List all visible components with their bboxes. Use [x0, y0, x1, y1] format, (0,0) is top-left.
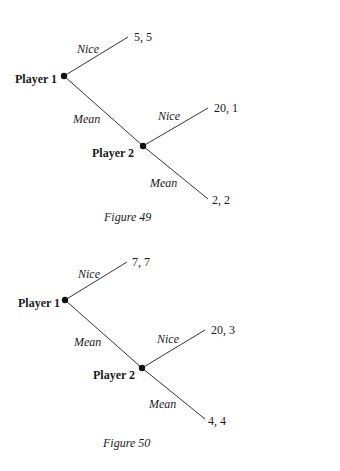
edge-p2-mean — [142, 368, 205, 419]
figure-caption: Figure 49 — [104, 211, 151, 223]
payoff-p2-mean: 2, 2 — [212, 194, 230, 206]
p2-nice-label: Nice — [157, 333, 179, 345]
p2-mean-label: Mean — [150, 177, 177, 189]
node-player2 — [139, 365, 145, 371]
player2-label: Player 2 — [92, 147, 134, 159]
player1-label: Player 1 — [15, 73, 57, 85]
node-player2 — [140, 143, 146, 149]
p1-mean-label: Mean — [73, 113, 100, 125]
payoff-p1-nice: 7, 7 — [132, 256, 150, 268]
edge-p1-mean — [65, 300, 142, 368]
payoff-p2-nice: 20, 1 — [214, 102, 238, 114]
node-player1 — [61, 73, 67, 79]
p1-mean-label: Mean — [74, 336, 101, 348]
p2-mean-label: Mean — [149, 398, 176, 410]
p2-nice-label: Nice — [158, 110, 180, 122]
payoff-p2-nice: 20, 3 — [211, 324, 235, 336]
edge-p2-mean — [143, 146, 208, 199]
payoff-p1-nice: 5, 5 — [134, 31, 152, 43]
node-player1 — [62, 297, 68, 303]
p1-nice-label: Nice — [77, 43, 99, 55]
figure-caption: Figure 50 — [103, 437, 150, 449]
edge-p1-mean — [64, 76, 143, 146]
player2-label: Player 2 — [93, 369, 135, 381]
p1-nice-label: Nice — [78, 268, 100, 280]
player1-label: Player 1 — [18, 297, 60, 309]
payoff-p2-mean: 4, 4 — [208, 415, 226, 427]
